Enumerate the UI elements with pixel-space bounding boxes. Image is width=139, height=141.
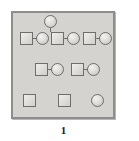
pedigree-panel: [11, 11, 115, 119]
node-g0-c1: [44, 15, 57, 28]
node-g2-c2: [87, 63, 100, 76]
node-g1-c1: [36, 32, 49, 45]
node-g1-c3: [99, 32, 112, 45]
node-g3-s1: [23, 94, 36, 107]
node-g1-c2: [67, 32, 80, 45]
node-g3-c1: [91, 94, 104, 107]
node-g3-s2: [58, 94, 71, 107]
pedigree-figure: 1: [0, 0, 139, 141]
figure-caption: 1: [0, 123, 127, 137]
node-g2-c1: [51, 63, 64, 76]
